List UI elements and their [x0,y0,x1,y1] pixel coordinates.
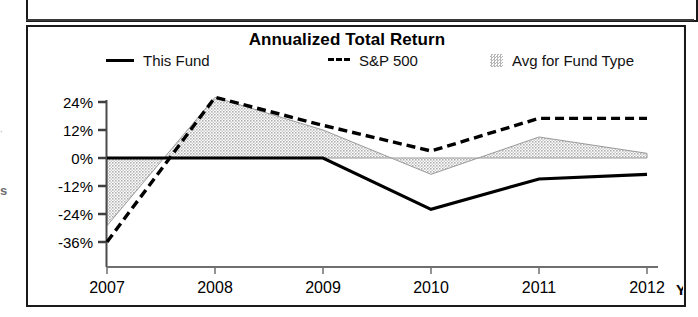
x-axis-tick-label: 2008 [197,279,233,297]
x-axis-tick-label: 2010 [413,279,449,297]
scan-edge-fragment-lower: s [0,184,7,197]
y-axis-tick-label: -24% [29,206,93,223]
chart-panel: Annualized Total Return This Fund S&P 50… [26,25,686,307]
plot-area: 24%12%0%-12%-24%-36% 2007200820092010201… [28,27,684,305]
y-axis-tick-label: -12% [29,178,93,195]
scan-edge-fragment-upper: · [0,128,3,137]
previous-panel-shadow [26,19,694,21]
x-axis-ytd-label: YT [676,281,686,298]
series-line-this-fund [107,158,647,209]
area-band-avg-fund-type [107,97,647,225]
x-axis-tick-label: 2012 [629,279,665,297]
panel-right-edge-gradient [683,27,686,305]
chart-axes [98,100,658,274]
series-area-avg-fund-type [107,97,647,225]
y-axis-tick-label: 24% [29,94,93,111]
x-axis-tick-label: 2007 [89,279,125,297]
x-axis-tick-label: 2011 [522,279,556,297]
y-axis-tick-label: 0% [29,150,93,167]
polyline-this-fund [107,158,647,209]
chart-plot-svg [28,27,686,307]
x-axis-tick-label: 2009 [305,279,341,297]
polyline-sp500 [107,97,647,242]
y-axis-tick-label: 12% [29,122,93,139]
series-line-sp500 [107,97,647,242]
y-axis-tick-label: -36% [29,234,93,251]
